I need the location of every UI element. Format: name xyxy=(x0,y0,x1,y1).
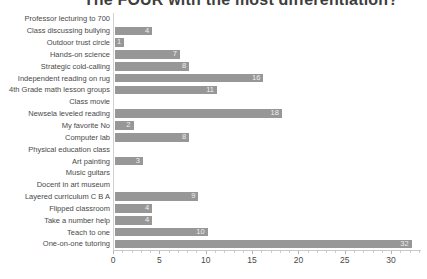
bar: 7 xyxy=(115,50,180,59)
bar-track: 8 xyxy=(115,62,427,71)
x-tick-mark-major xyxy=(298,251,299,254)
bar-value-label: 1 xyxy=(117,38,124,47)
x-tick-label: 5 xyxy=(147,255,171,265)
bar: 9 xyxy=(115,192,198,201)
x-tick-mark-minor xyxy=(271,251,272,253)
x-tick-mark-minor xyxy=(187,251,188,253)
bar: 32 xyxy=(115,240,412,249)
x-tick-mark-minor xyxy=(419,251,420,253)
category-label: Outdoor trust circle xyxy=(0,38,114,47)
bar-value-label: 16 xyxy=(252,74,263,83)
x-tick-mark-minor xyxy=(132,251,133,253)
x-tick-label: 15 xyxy=(240,255,264,265)
bar-row: Flipped classroom4 xyxy=(0,203,427,215)
category-label: Strategic cold-calling xyxy=(0,62,114,71)
y-axis-line xyxy=(113,13,114,250)
category-label: Flipped classroom xyxy=(0,204,114,213)
category-label: Computer lab xyxy=(0,133,114,142)
bar-row: Newsela leveled reading18 xyxy=(0,108,427,120)
bar-track xyxy=(115,145,427,154)
bar-row: Take a number help4 xyxy=(0,214,427,226)
bar-row: One-on-one tutoring32 xyxy=(0,238,427,250)
bar-value-label: 8 xyxy=(182,62,189,71)
bar-track xyxy=(115,180,427,189)
bar-value-label: 7 xyxy=(173,50,180,59)
category-label: Professor lecturing to 700 xyxy=(0,14,114,23)
bar: 2 xyxy=(115,121,134,130)
bar: 4 xyxy=(115,27,152,36)
category-label: Class discussing bullying xyxy=(0,26,114,35)
x-tick-mark-minor xyxy=(373,251,374,253)
bar-value-label: 4 xyxy=(145,204,152,213)
bar-value-label: 32 xyxy=(400,240,411,249)
bar-value-label: 9 xyxy=(191,192,198,201)
x-tick-mark-major xyxy=(159,251,160,254)
bar-track: 4 xyxy=(115,27,427,36)
category-label: Independent reading on rug xyxy=(0,74,114,83)
x-tick-mark-minor xyxy=(363,251,364,253)
bar: 4 xyxy=(115,216,152,225)
bar-value-label: 4 xyxy=(145,216,152,225)
bar: 1 xyxy=(115,38,124,47)
bar-track: 7 xyxy=(115,50,427,59)
x-tick-mark-major xyxy=(345,251,346,254)
bar-row: Hands-on science7 xyxy=(0,49,427,61)
bar-row: Class movie xyxy=(0,96,427,108)
bar-row: Outdoor trust circle1 xyxy=(0,37,427,49)
x-tick-mark-minor xyxy=(234,251,235,253)
bar-track: 4 xyxy=(115,204,427,213)
bar-row: Music guitars xyxy=(0,167,427,179)
bar-value-label: 10 xyxy=(196,228,207,237)
bar-track: 4 xyxy=(115,216,427,225)
x-tick-mark-minor xyxy=(335,251,336,253)
category-label: Hands-on science xyxy=(0,50,114,59)
bar-value-label: 3 xyxy=(136,157,143,166)
category-label: 4th Grade math lesson groups xyxy=(0,85,114,94)
chart-title: The FOUR with the most differentiation? xyxy=(55,0,427,9)
x-tick-mark-major xyxy=(391,251,392,254)
bar-value-label: 11 xyxy=(206,86,217,95)
bar-track: 1 xyxy=(115,38,427,47)
x-tick-mark-minor xyxy=(141,251,142,253)
x-tick-mark-minor xyxy=(354,251,355,253)
bar-track xyxy=(115,169,427,178)
x-tick-mark-minor xyxy=(243,251,244,253)
x-tick-mark-minor xyxy=(400,251,401,253)
bar-value-label: 18 xyxy=(271,109,282,118)
x-tick-mark-minor xyxy=(308,251,309,253)
bar-track: 10 xyxy=(115,228,427,237)
bar-track: 18 xyxy=(115,109,427,118)
bar-track xyxy=(115,15,427,24)
x-tick-mark-minor xyxy=(382,251,383,253)
bar-value-label: 8 xyxy=(182,133,189,142)
x-tick-mark-minor xyxy=(215,251,216,253)
bar-row: My favorite No2 xyxy=(0,120,427,132)
bar: 10 xyxy=(115,228,208,237)
bar-row: Teach to one10 xyxy=(0,226,427,238)
bar: 8 xyxy=(115,133,189,142)
bar-row: Layered curriculum C B A9 xyxy=(0,191,427,203)
x-tick-mark-major xyxy=(252,251,253,254)
x-tick-label: 0 xyxy=(101,255,125,265)
category-label: Music guitars xyxy=(0,168,114,177)
category-label: Newsela leveled reading xyxy=(0,109,114,118)
x-tick-mark-major xyxy=(206,251,207,254)
x-tick-mark-minor xyxy=(317,251,318,253)
bar: 8 xyxy=(115,62,189,71)
x-tick-mark-major xyxy=(113,251,114,254)
bar-value-label: 4 xyxy=(145,27,152,36)
bar-track: 32 xyxy=(115,240,427,249)
x-tick-mark-minor xyxy=(289,251,290,253)
bar-value-label: 2 xyxy=(126,121,133,130)
bar-track: 2 xyxy=(115,121,427,130)
bar-row: Class discussing bullying4 xyxy=(0,25,427,37)
bar-track: 16 xyxy=(115,74,427,83)
bar-row: Computer lab8 xyxy=(0,131,427,143)
bar-row: Professor lecturing to 700 xyxy=(0,13,427,25)
bar-rows: Professor lecturing to 700Class discussi… xyxy=(0,13,427,250)
bar-row: Docent in art museum xyxy=(0,179,427,191)
category-label: Physical education class xyxy=(0,145,114,154)
x-tick-mark-minor xyxy=(280,251,281,253)
category-label: Take a number help xyxy=(0,216,114,225)
category-label: Docent in art museum xyxy=(0,180,114,189)
